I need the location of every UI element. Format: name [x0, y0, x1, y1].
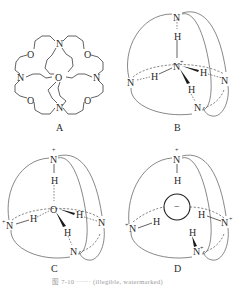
atom-n-right: N: [221, 75, 228, 86]
atom-h-bottom: H: [189, 227, 196, 238]
charge-n-top: +: [175, 147, 179, 153]
atom-o-upper-right: O: [84, 49, 91, 60]
atom-n-top: N: [56, 38, 63, 49]
atom-n-left: N: [127, 77, 134, 88]
atom-n-top: N: [173, 12, 180, 23]
bond-right-wedge: [59, 209, 75, 215]
hbond-left: [37, 211, 49, 217]
panel-b: N H N + H N H N H N B: [127, 12, 228, 133]
hbond-right: [84, 217, 97, 221]
bond-bottom-wedge: [56, 212, 66, 227]
atom-h-left: H: [153, 216, 160, 227]
atom-h-left: H: [151, 71, 158, 82]
charge-n-right: +: [229, 216, 233, 222]
atom-n-right: N: [221, 217, 228, 228]
atom-n-bottom: N: [194, 102, 201, 113]
anion-charge: −: [174, 201, 180, 212]
atom-o-center: O: [50, 204, 57, 215]
atom-n-top: N: [50, 154, 57, 165]
atom-h-right: H: [200, 67, 207, 78]
atom-n-right: N: [98, 217, 105, 228]
atom-o-lower-left: O: [27, 95, 34, 106]
charge-n-top: +: [52, 147, 56, 153]
atom-n-bottom: N: [56, 102, 63, 113]
bond-bottom-wedge: [180, 69, 190, 84]
atom-h-right: H: [76, 209, 83, 220]
figure-canvas: N O O N O N O O N A N H N + H: [0, 0, 236, 286]
atom-h-top: H: [174, 175, 181, 186]
panel-c: + N H O + N H H N H N C: [2, 147, 105, 274]
bond-left: [159, 68, 172, 74]
panel-label-a: A: [56, 122, 64, 133]
figure-caption: 图 7-10 ······ (illegible, watermarked): [52, 278, 163, 286]
hbond-bottom: [191, 94, 195, 101]
charge-n-bottom: +: [200, 245, 204, 251]
bond-left: [138, 223, 152, 228]
charge-center: +: [180, 59, 184, 65]
atom-h-top: H: [174, 31, 181, 42]
atom-o-center: O: [55, 72, 62, 83]
atom-h-bottom: H: [188, 84, 195, 95]
atom-o-lower-right: O: [84, 95, 91, 106]
panel-label-d: D: [174, 263, 181, 274]
bond-right-wedge: [182, 66, 199, 72]
atom-h-right: H: [198, 209, 205, 220]
panel-label-c: C: [51, 263, 58, 274]
bond-right: [207, 216, 221, 221]
hbond-left: [137, 77, 150, 80]
hbond-right: [208, 74, 222, 78]
atom-h-left: H: [30, 213, 37, 224]
atom-h-bottom: H: [64, 227, 71, 238]
panel-d: − + N H + N H H N + H N + D: [125, 147, 233, 274]
atom-o-upper-left: O: [27, 49, 34, 60]
atom-n-bottom: N: [70, 246, 77, 257]
atom-n-left: N: [17, 72, 24, 83]
atom-n-left: N: [6, 220, 13, 231]
atom-n-top: N: [173, 154, 180, 165]
atom-n-left: N: [129, 223, 136, 234]
bond-left: [16, 220, 29, 224]
panel-a: N O O N O N O O N A: [15, 36, 103, 133]
cryptand-complex-figure: N O O N O N O O N A N H N + H: [0, 0, 236, 286]
atom-h-top: H: [51, 175, 58, 186]
atom-n-right: N: [93, 72, 100, 83]
panel-label-b: B: [174, 122, 181, 133]
